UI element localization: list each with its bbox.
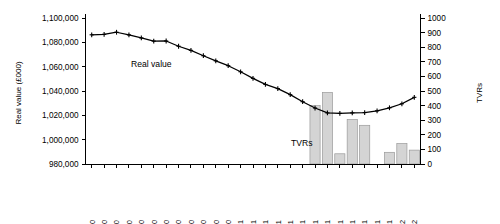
- marker-12-nov-00: [214, 58, 218, 63]
- marker-23-jul-00: [164, 39, 168, 44]
- x-tick-label: 15 Oct 00: [199, 220, 208, 224]
- x-tick-label: 29 Apr 01: [286, 220, 295, 224]
- right-tick-label: 0: [428, 160, 433, 169]
- line-series-real-value: [92, 32, 415, 113]
- x-tick-label: 04 Feb 01: [249, 220, 258, 224]
- x-tick-label: 22 Jul 01: [323, 220, 332, 224]
- marker-29-apr-01: [288, 92, 292, 97]
- x-tick-label: 06 Feb 00: [88, 220, 97, 224]
- marker-27-may-01: [301, 99, 305, 104]
- right-axis-ticks: 01002003004005006007008009001000: [421, 14, 447, 169]
- x-tick-label: 11 Nov 01: [373, 220, 382, 224]
- right-tick-label: 500: [428, 87, 442, 96]
- right-tick-label: 700: [428, 58, 442, 67]
- marker-03-feb-02: [412, 95, 416, 100]
- right-tick-label: 800: [428, 43, 442, 52]
- line-markers: [90, 30, 417, 116]
- left-tick-label: 1,020,000: [42, 111, 79, 120]
- bar-14-oct-01: [360, 125, 370, 164]
- marker-10-dec-00: [226, 63, 230, 68]
- bar-22-jul-01: [322, 92, 332, 164]
- marker-09-dec-01: [387, 105, 391, 110]
- marker-15-oct-00: [201, 53, 205, 58]
- marker-16-sep-01: [350, 111, 354, 116]
- x-axis-ticks: 06 Feb 0005 Mar 0002 Apr 0030 Apr 0028 M…: [88, 164, 420, 224]
- right-tick-label: 300: [428, 116, 442, 125]
- x-tick-label: 01 Apr 01: [274, 220, 283, 224]
- bar-09-dec-01: [384, 152, 394, 164]
- marker-04-mar-01: [263, 82, 267, 87]
- marker-25-jun-00: [152, 39, 156, 44]
- marker-19-aug-01: [338, 111, 342, 116]
- x-tick-label: 06 Jan 02: [398, 220, 407, 224]
- left-tick-label: 1,080,000: [42, 38, 79, 47]
- x-tick-label: 03 Feb 02: [410, 220, 419, 224]
- right-tick-label: 1000: [428, 14, 447, 23]
- left-tick-label: 1,100,000: [42, 14, 79, 23]
- chart-container: 980,0001,000,0001,020,0001,040,0001,060,…: [0, 0, 500, 224]
- x-tick-label: 04 Mar 01: [261, 220, 270, 224]
- marker-11-nov-01: [375, 108, 379, 113]
- marker-07-jan-01: [238, 69, 242, 74]
- x-tick-label: 09 Dec 01: [385, 220, 394, 224]
- marker-06-feb-00: [90, 32, 94, 37]
- left-axis-title: Real value (£000): [14, 61, 23, 124]
- bar-16-sep-01: [347, 119, 357, 164]
- real-value-line: [92, 32, 415, 113]
- left-tick-label: 1,000,000: [42, 136, 79, 145]
- x-tick-label: 24 Jun 01: [311, 220, 320, 224]
- x-tick-label: 02 Apr 00: [112, 220, 121, 224]
- x-tick-label: 20 Aug 00: [174, 220, 183, 224]
- bar-24-jun-01: [310, 106, 320, 164]
- x-tick-label: 07 Jan 01: [236, 220, 245, 224]
- x-tick-label: 28 May 00: [137, 220, 146, 224]
- right-tick-label: 400: [428, 102, 442, 111]
- right-tick-label: 100: [428, 145, 442, 154]
- x-tick-label: 12 Nov 00: [212, 220, 221, 224]
- marker-05-mar-00: [102, 32, 106, 37]
- marker-04-feb-01: [251, 76, 255, 81]
- marker-20-aug-00: [176, 44, 180, 49]
- x-tick-label: 17 Sep 00: [187, 220, 196, 224]
- x-tick-label: 23 Jul 00: [162, 220, 171, 224]
- real-value-annotation: Real value: [131, 59, 172, 69]
- right-tick-label: 900: [428, 29, 442, 38]
- tvrs-annotation: TVRs: [291, 138, 312, 148]
- x-tick-label: 27 May 01: [298, 220, 307, 224]
- right-tick-label: 200: [428, 131, 442, 140]
- left-tick-label: 1,060,000: [42, 63, 79, 72]
- left-axis-ticks: 980,0001,000,0001,020,0001,040,0001,060,…: [42, 14, 85, 169]
- marker-01-apr-01: [276, 86, 280, 91]
- x-tick-label: 30 Apr 00: [125, 220, 134, 224]
- left-tick-label: 1,040,000: [42, 87, 79, 96]
- marker-17-sep-00: [189, 48, 193, 53]
- right-tick-label: 600: [428, 72, 442, 81]
- marker-30-apr-00: [127, 33, 131, 38]
- marker-28-may-00: [139, 36, 143, 41]
- x-tick-label: 16 Sep 01: [348, 220, 357, 224]
- left-tick-label: 980,000: [49, 160, 79, 169]
- right-axis-title: TVRs: [475, 83, 484, 103]
- real-value-tvrs-chart: 980,0001,000,0001,020,0001,040,0001,060,…: [0, 0, 500, 224]
- marker-02-apr-00: [114, 30, 118, 35]
- x-tick-label: 19 Aug 01: [336, 220, 345, 224]
- x-tick-label: 14 Oct 01: [360, 220, 369, 224]
- bar-19-aug-01: [335, 154, 345, 164]
- x-tick-label: 10 Dec 00: [224, 220, 233, 224]
- bar-06-jan-02: [397, 144, 407, 164]
- marker-14-oct-01: [363, 110, 367, 115]
- x-tick-label: 25 Jun 00: [150, 220, 159, 224]
- x-tick-label: 05 Mar 00: [100, 220, 109, 224]
- marker-06-jan-02: [400, 101, 404, 106]
- bar-03-feb-02: [409, 150, 419, 164]
